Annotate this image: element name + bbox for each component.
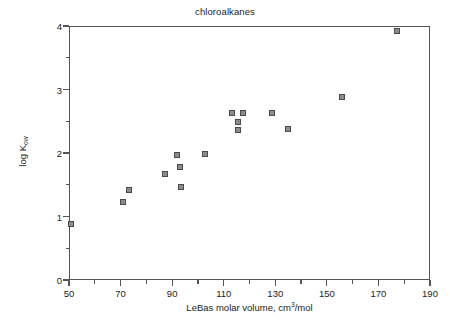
data-point (120, 199, 126, 205)
y-axis-minor-tick (66, 248, 70, 249)
data-point (394, 28, 400, 34)
x-axis-tick (429, 280, 430, 286)
data-point (240, 110, 246, 116)
x-axis-minor-tick (197, 280, 198, 284)
x-axis-label-suffix: /mol (295, 302, 313, 313)
y-axis-tick-label: 2 (57, 148, 62, 159)
y-axis-tick (63, 279, 69, 280)
y-axis-tick (63, 216, 69, 217)
x-axis-minor-tick (404, 280, 405, 284)
x-axis-tick (326, 280, 327, 286)
x-axis-tick-label: 70 (115, 288, 126, 299)
x-axis-tick-label: 130 (267, 288, 283, 299)
y-axis-tick (63, 152, 69, 153)
x-axis-minor-tick (352, 280, 353, 284)
x-axis-tick (378, 280, 379, 286)
data-point (269, 110, 275, 116)
y-axis-tick-label: 1 (57, 211, 62, 222)
data-point (202, 151, 208, 157)
x-axis-tick (120, 280, 121, 286)
chart-figure: chloroalkanes 50709011013015017019001234… (0, 0, 450, 322)
data-point (126, 187, 132, 193)
y-axis-tick (63, 89, 69, 90)
x-axis-tick-label: 150 (319, 288, 335, 299)
x-axis-tick-label: 190 (422, 288, 438, 299)
y-axis-label-prefix: log K (17, 145, 28, 167)
data-point (162, 171, 168, 177)
y-axis-tick-label: 0 (57, 275, 62, 286)
data-point (68, 221, 74, 227)
data-point (229, 110, 235, 116)
plot-area (69, 26, 430, 280)
data-point (285, 126, 291, 132)
x-axis-tick (172, 280, 173, 286)
y-axis-label: log Kow (17, 92, 28, 212)
x-axis-label-prefix: LeBas molar volume, cm (186, 302, 291, 313)
x-axis-tick-label: 110 (216, 288, 231, 299)
y-axis-minor-tick (66, 121, 70, 122)
x-axis-minor-tick (249, 280, 250, 284)
y-axis-tick (63, 25, 69, 26)
x-axis-tick-label: 90 (167, 288, 178, 299)
x-axis-minor-tick (146, 280, 147, 284)
x-axis-tick (68, 280, 69, 286)
x-axis-tick-label: 170 (370, 288, 386, 299)
y-axis-tick-label: 4 (57, 21, 62, 32)
data-point (235, 119, 241, 125)
data-points-layer (70, 27, 429, 279)
data-point (235, 127, 241, 133)
x-axis-minor-tick (300, 280, 301, 284)
y-axis-label-subscript: ow (22, 136, 29, 145)
y-axis-tick-label: 3 (57, 84, 62, 95)
data-point (177, 164, 183, 170)
x-axis-tick-label: 50 (64, 288, 75, 299)
data-point (174, 152, 180, 158)
y-axis-minor-tick (66, 57, 70, 58)
y-axis-minor-tick (66, 184, 70, 185)
data-point (339, 94, 345, 100)
chart-title: chloroalkanes (0, 6, 450, 17)
x-axis-tick (223, 280, 224, 286)
x-axis-minor-tick (94, 280, 95, 284)
x-axis-tick (275, 280, 276, 286)
data-point (178, 184, 184, 190)
x-axis-label: LeBas molar volume, cm3/mol (69, 302, 430, 313)
